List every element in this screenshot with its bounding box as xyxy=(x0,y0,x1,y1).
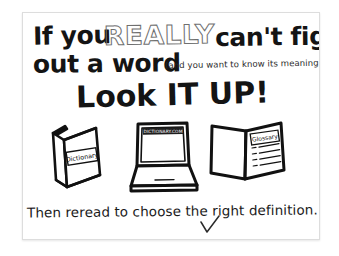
dictionary-book-icon: Dictionary xyxy=(45,117,117,195)
call-to-action-text: Look IT UP! xyxy=(75,76,269,113)
laptop-icon: DICTIONARY.COM xyxy=(127,117,201,195)
illustration-row: Dictionary xyxy=(23,117,320,197)
laptop-screen-title-label: DICTIONARY.COM xyxy=(143,129,182,134)
illustration-laptop: DICTIONARY.COM xyxy=(127,117,201,199)
illustration-dictionary-book: Dictionary xyxy=(45,117,117,199)
poster-canvas: If you REALLY can't figure out a word (a… xyxy=(0,0,339,256)
headline-emphasis-really: REALLY xyxy=(104,21,215,49)
glossary-book-icon: Glossary xyxy=(207,117,289,195)
illustration-glossary-book: Glossary xyxy=(207,117,289,199)
call-to-action-line: Look IT UP! xyxy=(23,79,320,113)
footer-instruction-line: Then reread to choose the right definiti… xyxy=(23,201,320,220)
footer-instruction-text: Then reread to choose the right definiti… xyxy=(27,201,318,220)
checkmark-icon xyxy=(197,215,223,237)
headline-text-if-you: If you xyxy=(33,22,111,49)
checkmark-annotation xyxy=(197,215,223,237)
headline-parenthetical-note: (and you want to know its meaning) xyxy=(165,58,320,71)
poster-card: If you REALLY can't figure out a word (a… xyxy=(22,12,320,240)
headline-text-cant-figure: can't figure xyxy=(215,23,320,50)
headline-text-out-a-word: out a word xyxy=(33,50,181,77)
